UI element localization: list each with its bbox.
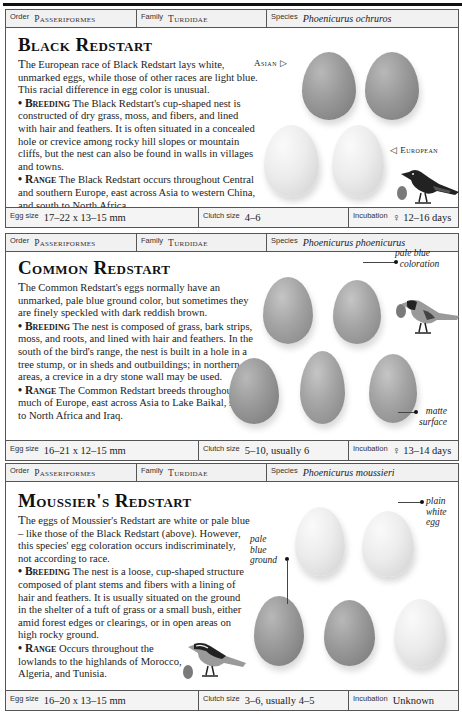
taxonomy-header: OrderPasseriformes FamilyTurdidae Specie… bbox=[6, 10, 458, 28]
annotation-leader bbox=[398, 502, 422, 503]
clutch-size-cell: Clutch size4–6 bbox=[199, 208, 349, 227]
species-value: Phoenicurus moussieri bbox=[303, 467, 395, 478]
egg-5 bbox=[394, 599, 446, 668]
species-title: Black Redstart bbox=[18, 34, 152, 56]
annotation-dot bbox=[414, 410, 418, 414]
intro-text: The Common Redstart's eggs normally have… bbox=[18, 282, 249, 318]
egg-size-value: 16–20 x 13–15 mm bbox=[44, 695, 126, 706]
egg-1 bbox=[295, 507, 345, 576]
family-label: Family bbox=[141, 12, 163, 21]
annotation-leader bbox=[287, 560, 288, 604]
moussiers-redstart-bird-icon bbox=[186, 639, 248, 681]
incubation-cell: IncubationUnknown bbox=[349, 691, 458, 710]
annotation-dot bbox=[394, 260, 398, 264]
pale-blue-annotation: pale blue coloration bbox=[395, 248, 439, 269]
description: The Common Redstart's eggs normally have… bbox=[18, 281, 258, 423]
description: The European race of Black Redstart lays… bbox=[18, 58, 258, 212]
species-value: Phoenicurus phoenicurus bbox=[303, 237, 406, 248]
egg-size-cell: Egg size17–22 x 13–15 mm bbox=[6, 208, 199, 227]
species-cell: SpeciesPhoenicurus ochruros bbox=[267, 10, 458, 27]
taxonomy-header: OrderPasseriformes FamilyTurdidae Specie… bbox=[6, 234, 458, 252]
range-paragraph: • Range The Common Redstart breeds throu… bbox=[18, 384, 258, 423]
annotation-dot bbox=[420, 500, 424, 504]
egg-4 bbox=[324, 600, 375, 666]
egg-size-value: 17–22 x 13–15 mm bbox=[44, 212, 126, 223]
incubation-cell: Incubation♀ 13–14 days bbox=[349, 441, 458, 460]
family-value: Turdidae bbox=[168, 14, 208, 24]
pale-blue-ground-annotation: paleblueground bbox=[250, 534, 277, 566]
top-rule bbox=[3, 3, 462, 6]
stats-footer: Egg size17–22 x 13–15 mm Clutch size4–6 … bbox=[6, 207, 458, 227]
taxonomy-header: OrderPasseriformes FamilyTurdidae Specie… bbox=[6, 464, 458, 482]
order-cell: OrderPasseriformes bbox=[6, 464, 137, 481]
incubation-value: Unknown bbox=[393, 695, 434, 706]
order-value: Passeriformes bbox=[34, 468, 95, 478]
entry-common-redstart: OrderPasseriformes FamilyTurdidae Specie… bbox=[5, 233, 459, 461]
plain-white-egg-annotation: plainwhiteegg bbox=[426, 496, 447, 528]
egg-size-cell: Egg size16–20 x 13–15 mm bbox=[6, 691, 199, 710]
egg-european-2 bbox=[332, 125, 384, 197]
range-paragraph: • Range Occurs throughout the lowlands t… bbox=[18, 642, 188, 681]
clutch-size-value: 3–6, usually 4–5 bbox=[245, 695, 315, 706]
entry-black-redstart: OrderPasseriformes FamilyTurdidae Specie… bbox=[5, 9, 459, 228]
order-cell: OrderPasseriformes bbox=[6, 10, 137, 27]
entry-moussiers-redstart: OrderPasseriformes FamilyTurdidae Specie… bbox=[5, 463, 459, 711]
species-value: Phoenicurus ochruros bbox=[303, 13, 392, 24]
egg-2 bbox=[362, 511, 414, 577]
species-title: Moussier's Redstart bbox=[18, 490, 192, 512]
order-value: Passeriformes bbox=[34, 14, 95, 24]
family-value: Turdidae bbox=[168, 468, 208, 478]
species-cell: SpeciesPhoenicurus moussieri bbox=[267, 464, 458, 481]
common-redstart-bird-icon bbox=[399, 296, 461, 338]
species-label: Species bbox=[271, 12, 298, 21]
annotation-leader bbox=[363, 262, 396, 263]
incubation-value: ♀ 12–16 days bbox=[393, 212, 452, 223]
species-title: Common Redstart bbox=[18, 257, 170, 279]
egg-size-cell: Egg size16–21 x 12–15 mm bbox=[6, 441, 199, 460]
stats-footer: Egg size16–21 x 12–15 mm Clutch size5–10… bbox=[6, 440, 458, 460]
family-cell: FamilyTurdidae bbox=[137, 234, 267, 251]
family-cell: FamilyTurdidae bbox=[137, 10, 267, 27]
black-redstart-bird-icon bbox=[399, 166, 461, 208]
egg-european-1 bbox=[264, 125, 319, 197]
breeding-paragraph: • Breeding The Black Redstart's cup-shap… bbox=[18, 97, 258, 174]
clutch-size-cell: Clutch size5–10, usually 6 bbox=[199, 441, 349, 460]
incubation-cell: Incubation♀ 12–16 days bbox=[349, 208, 458, 227]
clutch-size-value: 5–10, usually 6 bbox=[245, 445, 309, 456]
order-cell: OrderPasseriformes bbox=[6, 234, 137, 251]
egg-3 bbox=[229, 358, 279, 424]
egg-asian-2 bbox=[365, 52, 419, 120]
matte-surface-annotation: mattesurface bbox=[419, 406, 447, 427]
stats-footer: Egg size16–20 x 13–15 mm Clutch size3–6,… bbox=[6, 690, 458, 710]
order-value: Passeriformes bbox=[34, 238, 95, 248]
breeding-paragraph: • Breeding The nest is composed of grass… bbox=[18, 320, 258, 384]
intro-text: The eggs of Moussier's Redstart are whit… bbox=[18, 515, 250, 564]
order-label: Order bbox=[10, 12, 29, 21]
clutch-size-value: 4–6 bbox=[245, 212, 261, 223]
egg-2 bbox=[333, 280, 381, 344]
clutch-size-cell: Clutch size3–6, usually 4–5 bbox=[199, 691, 349, 710]
intro-text: The European race of Black Redstart lays… bbox=[18, 59, 258, 95]
asian-annotation: Asian ▷ bbox=[254, 58, 287, 68]
egg-4 bbox=[300, 351, 345, 424]
incubation-value: ♀ 13–14 days bbox=[393, 445, 452, 456]
european-annotation: ◁ European bbox=[390, 145, 438, 155]
egg-asian-1 bbox=[302, 52, 356, 120]
family-cell: FamilyTurdidae bbox=[137, 464, 267, 481]
family-value: Turdidae bbox=[168, 238, 208, 248]
breeding-paragraph: • Breeding The nest is a loose, cup-shap… bbox=[18, 565, 250, 642]
egg-size-value: 16–21 x 12–15 mm bbox=[44, 445, 126, 456]
egg-1 bbox=[263, 277, 313, 344]
egg-3 bbox=[254, 596, 304, 666]
